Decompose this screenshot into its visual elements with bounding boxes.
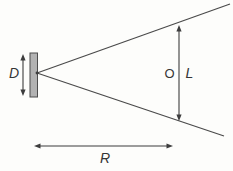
divergence-geometry-diagram: D O L R <box>0 0 233 171</box>
length-arrow <box>176 25 181 121</box>
object-label: O <box>164 66 174 81</box>
lower-divergence-line <box>37 73 224 136</box>
apex-point <box>36 72 39 75</box>
arrowhead-down-icon <box>20 90 25 97</box>
source-slab <box>30 53 38 97</box>
arrowhead-right-icon <box>167 143 174 148</box>
length-label: L <box>186 65 194 81</box>
range-label: R <box>100 150 110 166</box>
arrowhead-up-icon <box>20 54 25 61</box>
diameter-arrow <box>20 54 25 96</box>
range-arrow <box>34 143 173 148</box>
diagram-canvas: D O L R <box>0 0 233 171</box>
diameter-label: D <box>9 65 19 81</box>
arrowhead-up-icon <box>176 25 181 32</box>
upper-divergence-line <box>37 4 230 73</box>
arrowhead-left-icon <box>34 143 41 148</box>
